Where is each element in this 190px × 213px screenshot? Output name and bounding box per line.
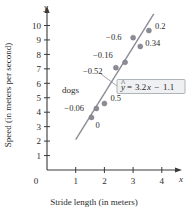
residual-label: −0.6	[106, 32, 121, 42]
x-axis-tick-label: 4	[160, 176, 165, 186]
residual-label: −0.52	[83, 66, 103, 76]
y-axis-tick-label: 9	[37, 35, 42, 45]
y-axis-tick-label: 7	[37, 64, 42, 74]
y-axis-tick-label: 4	[37, 107, 42, 117]
residual-label: 0.34	[145, 38, 161, 48]
equation-slope-value: 3.2	[135, 82, 146, 92]
data-point	[102, 101, 107, 106]
data-point	[113, 65, 118, 70]
y-axis-variable-label: y	[43, 2, 48, 12]
data-point	[146, 28, 151, 33]
data-point	[89, 115, 94, 120]
data-point	[138, 44, 143, 49]
x-axis-tick-label: 1	[73, 176, 78, 186]
residual-label: 0	[95, 120, 99, 130]
y-axis-tick-label: 3	[37, 122, 42, 132]
scatter-plot-figure: 1234567891012340yxStride length (in mete…	[0, 0, 190, 213]
y-axis-tick-label: 1	[37, 151, 42, 161]
y-axis-title: Speed (in meters per second)	[3, 43, 13, 147]
y-axis-tick-label: 8	[37, 50, 42, 60]
x-axis-variable-label: x	[178, 174, 183, 184]
residual-label: 0.5	[110, 93, 121, 103]
data-point	[123, 60, 128, 65]
regression-scatter-chart: 1234567891012340yxStride length (in mete…	[0, 0, 190, 213]
y-axis-tick-label: 10	[32, 21, 42, 31]
group-label-dogs: dogs	[62, 85, 80, 95]
data-point	[131, 35, 136, 40]
x-axis-title: Stride length (in meters)	[50, 197, 138, 207]
y-axis-tick-label: 2	[37, 136, 42, 146]
equation-intercept-value: 1.1	[163, 82, 174, 92]
x-axis-tick-label: 2	[102, 176, 107, 186]
equation-slope-variable: x	[146, 82, 151, 92]
x-axis-arrow	[175, 167, 182, 172]
residual-label: 0.2	[155, 21, 166, 31]
y-axis-tick-label: 5	[37, 93, 42, 103]
equation-equals-sign: =	[127, 82, 132, 92]
residual-label: −0.06	[64, 103, 84, 113]
y-axis-tick-label: 6	[37, 79, 42, 89]
origin-label: 0	[34, 176, 39, 186]
x-axis-tick-label: 3	[131, 176, 136, 186]
residual-label: −0.16	[93, 50, 113, 60]
data-point	[94, 106, 99, 111]
equation-minus-sign: −	[154, 82, 159, 92]
